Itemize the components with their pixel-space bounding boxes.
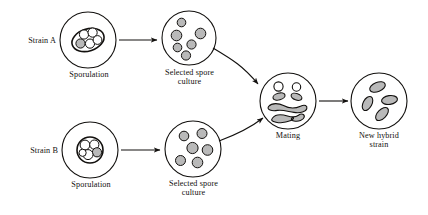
node-selected-spore-culture-a (162, 11, 216, 65)
label-sporulation-a: Sporulation (54, 70, 124, 79)
label-strain-b: Strain B (6, 146, 58, 155)
arrow-culture-b-to-mating (219, 118, 263, 141)
node-sporulation-a (60, 12, 116, 68)
label-new-hybrid-strain: New hybrid strain (344, 131, 414, 150)
yeast-hybridization-diagram: Strain A Strain B Sporulation Sporulatio… (0, 0, 428, 215)
label-strain-a: Strain A (6, 36, 56, 45)
node-new-hybrid-strain (351, 73, 407, 129)
node-sporulation-b (62, 122, 118, 178)
ascus-b (77, 137, 103, 163)
node-mating (260, 73, 316, 129)
label-sporulation-b: Sporulation (56, 180, 126, 189)
label-selected-spore-culture-a: Selected spore culture (147, 68, 232, 87)
node-selected-spore-culture-b (165, 121, 221, 177)
label-selected-spore-culture-b: Selected spore culture (151, 179, 236, 198)
label-mating: Mating (258, 131, 318, 140)
